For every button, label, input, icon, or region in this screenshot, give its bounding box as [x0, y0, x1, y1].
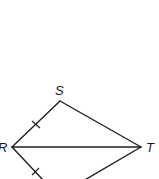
segment-t-bottom	[83, 147, 141, 179]
vertex-label-t: T	[146, 140, 155, 155]
segment-st	[60, 101, 141, 147]
vertex-label-r: R	[0, 140, 7, 155]
segment-r-bottom	[12, 147, 44, 179]
vertex-label-s: S	[55, 83, 64, 98]
geometry-diagram: S R T	[0, 0, 159, 179]
